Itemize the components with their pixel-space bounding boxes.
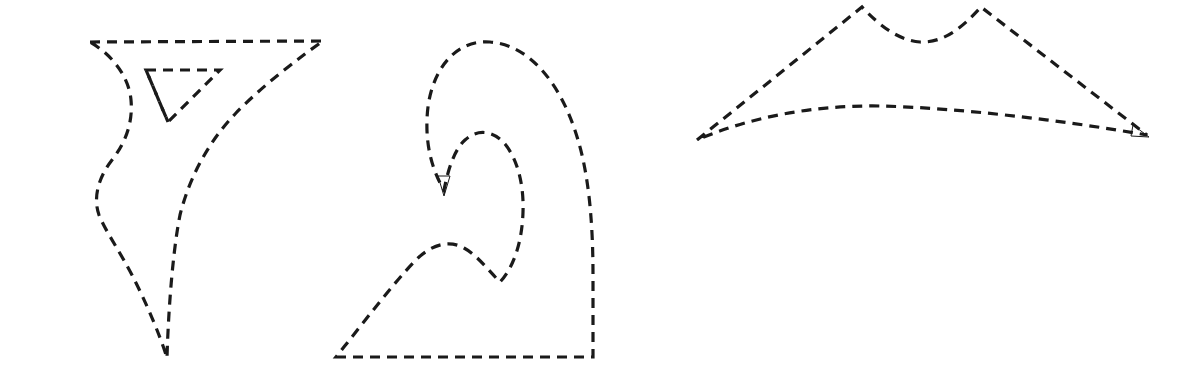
drawing-canvas xyxy=(0,0,1193,382)
canvas-background xyxy=(0,0,1193,382)
dashed-shapes-svg xyxy=(0,0,1193,382)
